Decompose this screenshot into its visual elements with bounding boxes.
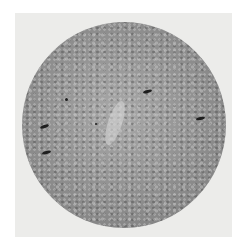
solar-disk — [22, 22, 226, 228]
spot-dot-1 — [65, 98, 68, 101]
spot-dot-2 — [95, 123, 97, 125]
granulation-texture — [22, 22, 226, 228]
